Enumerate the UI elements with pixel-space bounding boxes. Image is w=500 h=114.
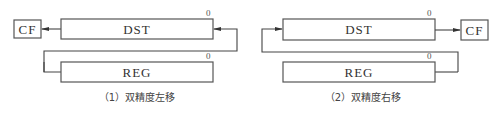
reg-bit0-label: 0 [427,51,432,61]
reg-feed-stub [44,62,61,72]
reg-bit0-label: 0 [206,51,211,61]
caption-right-shift: （2）双精度右移 [325,91,401,103]
reg-label: REG [345,65,374,80]
cf-label: CF [466,23,484,38]
shift-diagrams: CF DST 0 REG 0 （1）双精度左移 DST 0 CF REG 0 （… [0,0,500,114]
caption-left-shift: （1）双精度左移 [99,91,175,103]
cf-label: CF [19,22,37,37]
dst-bit0-label: 0 [206,8,211,18]
diagram-left-shift: CF DST 0 REG 0 （1）双精度左移 [14,8,237,103]
dst-bit0-label: 0 [427,8,432,18]
reg-label: REG [123,65,152,80]
dst-label: DST [123,22,151,37]
dst-label: DST [345,22,373,37]
diagram-right-shift: DST 0 CF REG 0 （2）双精度右移 [262,8,488,103]
